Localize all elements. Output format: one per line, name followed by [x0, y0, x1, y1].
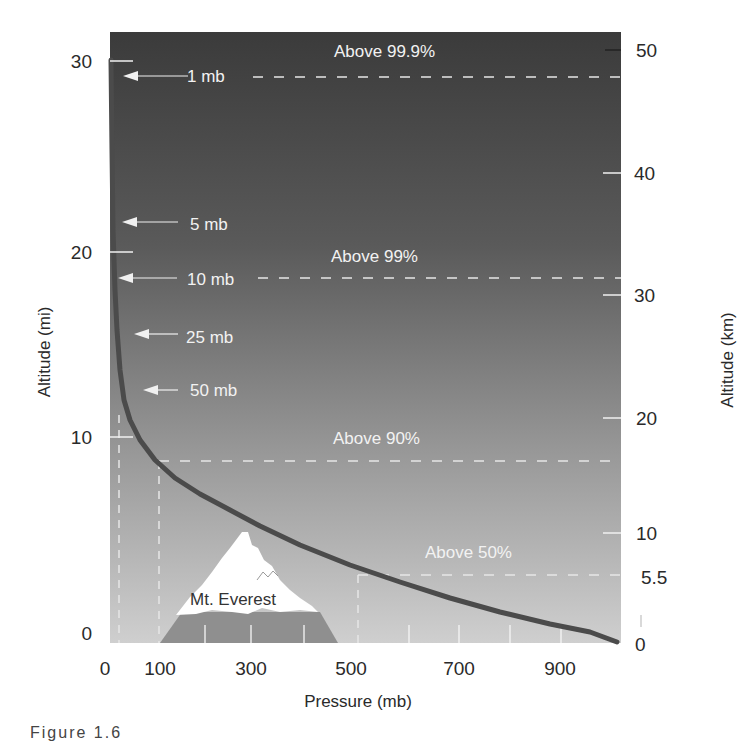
- svg-text:25 mb: 25 mb: [186, 328, 233, 347]
- svg-text:30: 30: [71, 51, 92, 72]
- mass-label-99: Above 99%: [331, 247, 418, 266]
- svg-text:500: 500: [335, 658, 367, 679]
- svg-text:1 mb: 1 mb: [187, 67, 225, 86]
- svg-text:0: 0: [635, 634, 646, 655]
- x-axis-labels: 0 100 300 500 700 900: [100, 658, 576, 679]
- svg-text:20: 20: [636, 408, 657, 429]
- mountain-label: Mt. Everest: [190, 590, 276, 609]
- svg-text:300: 300: [235, 658, 267, 679]
- svg-text:10 mb: 10 mb: [187, 270, 234, 289]
- svg-text:50: 50: [636, 40, 657, 61]
- y-axis-right-title: Altitude (km): [718, 312, 737, 407]
- svg-text:30: 30: [634, 285, 655, 306]
- svg-text:40: 40: [634, 163, 655, 184]
- svg-text:700: 700: [443, 658, 475, 679]
- mountain-rock: [160, 612, 338, 643]
- svg-text:20: 20: [71, 242, 92, 263]
- mass-label-90: Above 90%: [333, 429, 420, 448]
- svg-text:0: 0: [81, 623, 92, 644]
- svg-text:100: 100: [144, 658, 176, 679]
- svg-text:10: 10: [636, 523, 657, 544]
- svg-text:5 mb: 5 mb: [190, 215, 228, 234]
- svg-text:5.5: 5.5: [641, 567, 667, 588]
- svg-text:10: 10: [71, 427, 92, 448]
- x-axis-title: Pressure (mb): [304, 692, 412, 711]
- svg-text:900: 900: [544, 658, 576, 679]
- right-axis-labels: 50 40 30 20 10 5.5 0: [634, 40, 667, 655]
- svg-text:0: 0: [100, 658, 111, 679]
- left-axis-labels: 30 20 10 0: [71, 51, 92, 644]
- svg-text:50 mb: 50 mb: [190, 381, 237, 400]
- y-axis-left-title: Altitude (mi): [35, 307, 54, 398]
- mass-label-99-9: Above 99.9%: [334, 42, 435, 61]
- figure-caption: Figure 1.6: [30, 724, 122, 742]
- mass-label-50: Above 50%: [425, 543, 512, 562]
